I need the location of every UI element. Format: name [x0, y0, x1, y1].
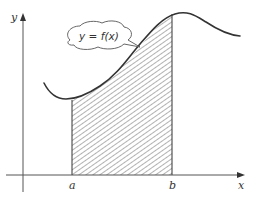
- integral-diagram: y = f(x) y x a b: [0, 0, 258, 205]
- y-axis: [20, 13, 26, 192]
- lower-bound-label: a: [69, 179, 76, 192]
- y-axis-label: y: [10, 11, 18, 24]
- curve-label: y = f(x): [78, 30, 119, 42]
- curve-label-callout: y = f(x): [68, 21, 140, 50]
- upper-bound-label: b: [169, 179, 176, 192]
- y-axis-arrow-icon: [20, 13, 26, 21]
- x-axis-label: x: [238, 179, 245, 192]
- x-axis-arrow-icon: [237, 172, 245, 178]
